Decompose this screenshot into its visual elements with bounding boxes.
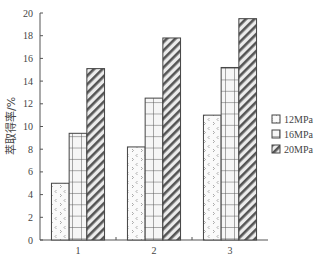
legend-label-20mpa: 20MPa xyxy=(284,144,313,155)
y-tick-label: 10 xyxy=(23,121,33,132)
legend-label-16mpa: 16MPa xyxy=(284,129,313,140)
legend-swatch-12mpa xyxy=(272,115,280,123)
legend-swatch-20mpa xyxy=(272,145,280,153)
y-tick-label: 16 xyxy=(23,53,33,64)
y-tick-label: 2 xyxy=(28,212,33,223)
y-tick-label: 20 xyxy=(23,8,33,19)
x-tick-label: 2 xyxy=(152,245,157,256)
grouped-bar-chart: 02468101214161820 123 12MPa16MPa20MPa 萃取… xyxy=(0,0,322,266)
y-axis-title: 萃取得率/% xyxy=(4,97,18,155)
bar-16mpa-group-2 xyxy=(145,98,163,240)
bar-12mpa-group-3 xyxy=(203,115,221,240)
legend: 12MPa16MPa20MPa xyxy=(272,114,313,155)
bar-20mpa-group-1 xyxy=(87,69,105,240)
bar-20mpa-group-2 xyxy=(163,38,181,240)
bar-16mpa-group-1 xyxy=(69,133,87,240)
y-tick-label: 0 xyxy=(28,235,33,246)
y-axis: 02468101214161820 xyxy=(23,8,43,246)
bar-12mpa-group-2 xyxy=(127,147,145,240)
x-tick-label: 1 xyxy=(76,245,81,256)
legend-swatch-16mpa xyxy=(272,130,280,138)
y-tick-label: 6 xyxy=(28,166,33,177)
bar-20mpa-group-3 xyxy=(239,19,257,240)
bar-12mpa-group-1 xyxy=(51,183,69,240)
y-tick-label: 12 xyxy=(23,98,33,109)
y-tick-label: 14 xyxy=(23,76,33,87)
x-tick-label: 3 xyxy=(228,245,233,256)
legend-label-12mpa: 12MPa xyxy=(284,114,313,125)
bars xyxy=(51,19,256,240)
bar-16mpa-group-3 xyxy=(221,67,239,240)
y-tick-label: 18 xyxy=(23,30,33,41)
y-tick-label: 4 xyxy=(28,189,33,200)
y-tick-label: 8 xyxy=(28,144,33,155)
